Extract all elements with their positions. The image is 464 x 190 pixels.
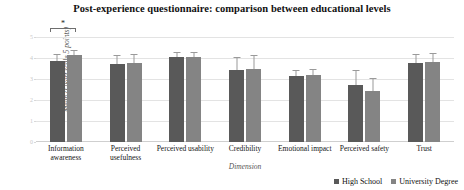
- y-tick-label: 0: [30, 139, 33, 145]
- bar-slot: [306, 37, 321, 142]
- bar-group: [96, 37, 156, 142]
- bar[interactable]: [169, 57, 184, 142]
- error-bar-cap: [429, 53, 436, 54]
- bar[interactable]: [408, 63, 423, 142]
- bar-slot: [169, 37, 184, 142]
- category-label: Perceived safety: [335, 145, 395, 162]
- bar-slot: [365, 37, 380, 142]
- bar-group: [155, 37, 215, 142]
- error-bar-cap: [71, 50, 78, 51]
- bar[interactable]: [348, 85, 363, 142]
- bar-group: [335, 37, 395, 142]
- bar-slot: [246, 37, 261, 142]
- error-bar: [355, 70, 356, 86]
- legend-swatch: [391, 179, 396, 184]
- category-label: Perceived usability: [155, 145, 215, 162]
- bar[interactable]: [306, 75, 321, 142]
- category-label: Emotional impact: [275, 145, 335, 162]
- category-label: Perceived usefulness: [96, 145, 156, 162]
- error-bar-cap: [114, 55, 121, 56]
- legend-item[interactable]: University Degree: [391, 177, 458, 186]
- error-bar: [253, 55, 254, 69]
- bar-slot: [408, 37, 423, 142]
- y-tick-label: 4: [30, 55, 33, 61]
- significance-bracket: *: [50, 24, 76, 32]
- bar-slot: [425, 37, 440, 142]
- bar-slot: [229, 37, 244, 142]
- y-tick-label: 5: [30, 34, 33, 40]
- legend-label: High School: [342, 177, 382, 186]
- bar[interactable]: [186, 57, 201, 142]
- error-bar: [296, 70, 297, 76]
- significance-star: *: [50, 20, 76, 28]
- category-label: Information awareness: [36, 145, 96, 162]
- error-bar: [134, 54, 135, 63]
- bar-slot: [110, 37, 125, 142]
- bar-slot: [348, 37, 363, 142]
- error-bar-cap: [293, 70, 300, 71]
- chart-legend: High SchoolUniversity Degree: [334, 177, 458, 186]
- plot-area: Mean (Likert scale 5 points) 012345: [36, 37, 454, 142]
- bar-group: [275, 37, 335, 142]
- chart-title: Post-experience questionnaire: compariso…: [0, 3, 464, 14]
- legend-swatch: [334, 179, 339, 184]
- bar-groups: [36, 37, 454, 142]
- bar[interactable]: [365, 91, 380, 142]
- bar[interactable]: [50, 61, 65, 142]
- error-bar-cap: [173, 52, 180, 53]
- error-bar: [193, 52, 194, 57]
- error-bar: [372, 78, 373, 91]
- error-bar-cap: [310, 69, 317, 70]
- bar-slot: [67, 37, 82, 142]
- bar-slot: [127, 37, 142, 142]
- y-tick-label: 3: [30, 76, 33, 82]
- error-bar-cap: [352, 70, 359, 71]
- error-bar-cap: [369, 78, 376, 79]
- bar[interactable]: [67, 55, 82, 142]
- bar[interactable]: [110, 64, 125, 142]
- bracket-bar: [50, 28, 76, 29]
- legend-item[interactable]: High School: [334, 177, 382, 186]
- bar-slot: [50, 37, 65, 142]
- error-bar: [432, 53, 433, 62]
- bar-group: [215, 37, 275, 142]
- error-bar: [57, 54, 58, 61]
- bar-slot: [186, 37, 201, 142]
- bracket-tick-right: [75, 28, 76, 32]
- error-bar: [236, 57, 237, 70]
- bracket-tick-left: [50, 28, 51, 32]
- error-bar: [313, 69, 314, 75]
- error-bar: [176, 52, 177, 57]
- category-labels: Information awarenessPerceived usefulnes…: [36, 145, 454, 162]
- y-tick-label: 1: [30, 118, 33, 124]
- bar[interactable]: [425, 62, 440, 142]
- error-bar-cap: [233, 57, 240, 58]
- error-bar-cap: [131, 54, 138, 55]
- bar-group: [394, 37, 454, 142]
- bar[interactable]: [229, 70, 244, 142]
- chart-figure: Post-experience questionnaire: compariso…: [0, 0, 464, 190]
- legend-label: University Degree: [399, 177, 458, 186]
- error-bar-cap: [190, 52, 197, 53]
- category-label: Trust: [394, 145, 454, 162]
- category-label: Credibility: [215, 145, 275, 162]
- error-bar-cap: [250, 55, 257, 56]
- y-tick-label: 2: [30, 97, 33, 103]
- error-bar: [117, 55, 118, 64]
- bar[interactable]: [246, 69, 261, 143]
- bar-slot: [289, 37, 304, 142]
- error-bar-cap: [412, 54, 419, 55]
- bar-group: [36, 37, 96, 142]
- error-bar-cap: [54, 54, 61, 55]
- y-tick-mark: [34, 142, 36, 143]
- bar[interactable]: [289, 76, 304, 142]
- bar[interactable]: [127, 63, 142, 142]
- error-bar: [74, 50, 75, 55]
- x-axis-label: Dimension: [36, 162, 454, 171]
- error-bar: [415, 54, 416, 63]
